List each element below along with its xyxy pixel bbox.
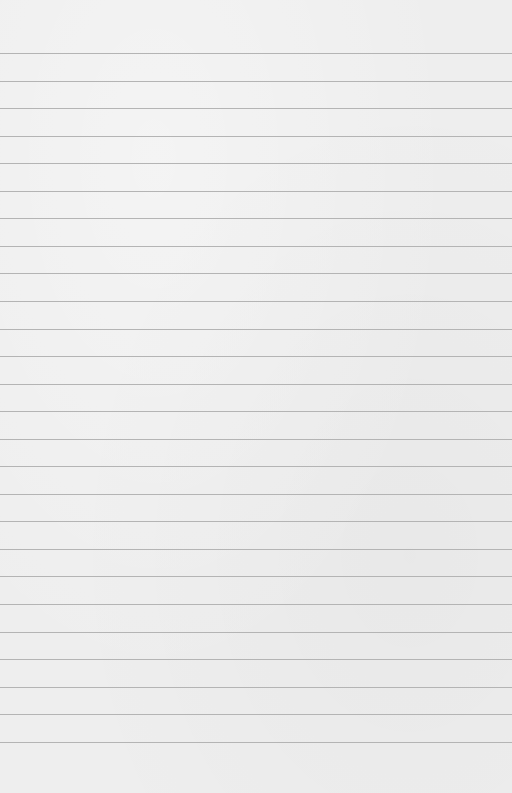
ruled-line — [0, 218, 512, 219]
ruled-line — [0, 604, 512, 605]
ruled-line — [0, 53, 512, 54]
ruled-line — [0, 742, 512, 743]
ruled-line — [0, 494, 512, 495]
ruled-line — [0, 714, 512, 715]
ruled-line — [0, 439, 512, 440]
ruled-line — [0, 659, 512, 660]
ruled-line — [0, 246, 512, 247]
ruled-line — [0, 411, 512, 412]
ruled-line — [0, 191, 512, 192]
ruled-line — [0, 163, 512, 164]
ruled-line — [0, 329, 512, 330]
lined-paper — [0, 0, 512, 793]
ruled-line — [0, 632, 512, 633]
ruled-line — [0, 273, 512, 274]
ruled-line — [0, 136, 512, 137]
ruled-line — [0, 687, 512, 688]
ruled-line — [0, 356, 512, 357]
ruled-line — [0, 81, 512, 82]
ruled-line — [0, 301, 512, 302]
ruled-line — [0, 384, 512, 385]
ruled-line — [0, 549, 512, 550]
ruled-line — [0, 108, 512, 109]
ruled-line — [0, 576, 512, 577]
ruled-line — [0, 521, 512, 522]
ruled-line — [0, 466, 512, 467]
